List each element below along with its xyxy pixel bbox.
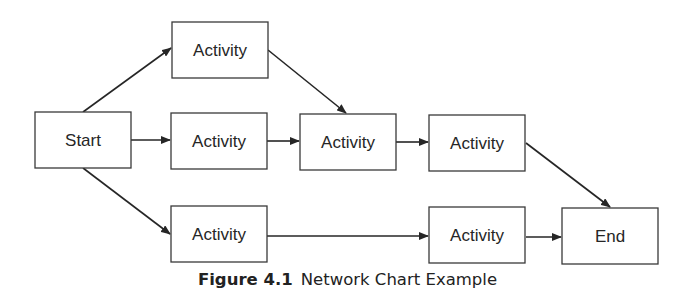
network-diagram: StartActivityActivityActivityActivityAct… — [0, 0, 695, 270]
figure-title: Network Chart Example — [301, 270, 497, 289]
node-label: End — [595, 227, 625, 246]
figure-caption: Figure 4.1Network Chart Example — [0, 270, 695, 289]
edge-a4-to-end — [526, 143, 610, 207]
node-end: End — [562, 208, 658, 264]
node-label: Activity — [193, 41, 247, 60]
nodes: StartActivityActivityActivityActivityAct… — [35, 22, 658, 264]
node-a3: Activity — [300, 114, 396, 170]
node-start: Start — [35, 112, 131, 168]
node-label: Activity — [192, 225, 246, 244]
node-label: Activity — [450, 134, 504, 153]
node-a6: Activity — [429, 207, 525, 263]
node-label: Activity — [450, 226, 504, 245]
figure-number: Figure 4.1 — [198, 270, 293, 289]
edge-start-to-a5 — [83, 168, 170, 234]
node-label: Activity — [192, 132, 246, 151]
node-label: Activity — [321, 133, 375, 152]
node-a2: Activity — [171, 113, 267, 169]
edge-start-to-a1 — [83, 48, 171, 112]
node-a4: Activity — [429, 115, 525, 171]
edge-a1-to-a3 — [268, 50, 346, 113]
node-a1: Activity — [172, 22, 268, 78]
node-label: Start — [65, 131, 101, 150]
node-a5: Activity — [171, 206, 267, 262]
